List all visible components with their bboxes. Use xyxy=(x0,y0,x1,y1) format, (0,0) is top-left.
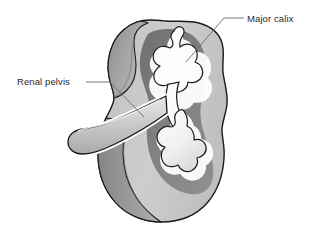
label-major-calix: Major calix xyxy=(247,13,294,24)
kidney-illustration xyxy=(0,0,317,240)
kidney-diagram-figure: Major calix Renal pelvis xyxy=(0,0,317,240)
label-renal-pelvis: Renal pelvis xyxy=(17,76,70,87)
